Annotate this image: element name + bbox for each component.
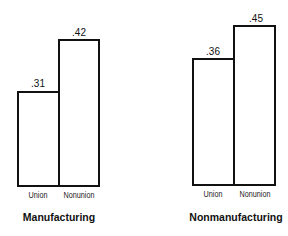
nonmanufacturing-nonunion-bar xyxy=(233,25,276,186)
nonmanufacturing-union-bar xyxy=(192,58,235,186)
manufacturing-union-label: Union xyxy=(19,190,56,200)
manufacturing-title: Manufacturing xyxy=(14,211,104,223)
manufacturing-nonunion-value: .42 xyxy=(59,28,99,38)
nonmanufacturing-union-label: Union xyxy=(194,189,231,199)
nonmanufacturing-nonunion-label: Nonunion xyxy=(236,189,273,199)
manufacturing-union-value: .31 xyxy=(18,79,58,89)
nonmanufacturing-nonunion-value: .45 xyxy=(236,14,276,24)
manufacturing-nonunion-bar xyxy=(58,39,100,187)
manufacturing-union-bar xyxy=(17,91,60,187)
nonmanufacturing-title: Nonmanufacturing xyxy=(186,211,286,223)
nonmanufacturing-union-value: .36 xyxy=(193,47,233,57)
manufacturing-nonunion-label: Nonunion xyxy=(60,190,97,200)
